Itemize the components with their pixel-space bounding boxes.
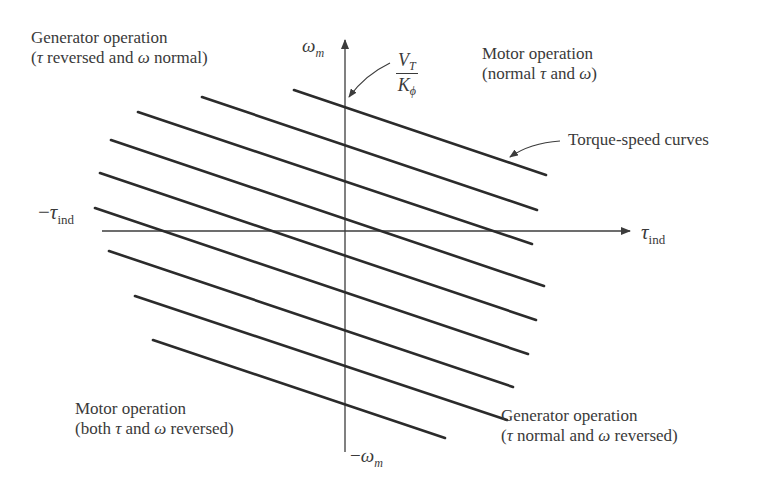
curve-line (109, 251, 513, 387)
quadrant-title: Generator operation (31, 28, 208, 48)
quadrant-subtitle: (τ normal and ω reversed) (501, 426, 678, 446)
intercept-fraction-label: VT Kϕ (396, 50, 418, 97)
curve-line (100, 173, 536, 320)
quadrant-title: Motor operation (75, 399, 234, 419)
fraction-numerator: VT (396, 50, 418, 72)
curve-line (95, 208, 528, 354)
tau-ind-axis-label: τind (641, 222, 665, 245)
quadrant-title: Motor operation (482, 44, 597, 64)
torque-speed-curves (95, 90, 546, 438)
fraction-bar (396, 73, 418, 74)
curves-pointer-arrow (510, 141, 560, 157)
quadrant-label-bottom-right: Generator operation (τ normal and ω reve… (501, 406, 678, 446)
quadrant-title: Generator operation (501, 406, 678, 426)
omega-m-axis-label: ωm (302, 36, 324, 58)
curve-line (138, 112, 532, 244)
quadrant-label-bottom-left: Motor operation (both τ and ω reversed) (75, 399, 234, 439)
quadrant-subtitle: (both τ and ω reversed) (75, 419, 234, 439)
curve-line (111, 140, 544, 286)
intercept-pointer-arrow (349, 63, 390, 97)
quadrant-label-top-right: Motor operation (normal τ and ω) (482, 44, 597, 84)
torque-speed-curves-label: Torque-speed curves (568, 130, 709, 150)
diagram-canvas: Generator operation (τ reversed and ω no… (0, 0, 776, 483)
quadrant-subtitle: (τ reversed and ω normal) (31, 48, 208, 68)
quadrant-label-top-left: Generator operation (τ reversed and ω no… (31, 28, 208, 68)
curve-line (294, 90, 546, 175)
fraction-denominator: Kϕ (396, 75, 418, 97)
quadrant-subtitle: (normal τ and ω) (482, 64, 597, 84)
axes (102, 40, 630, 452)
neg-tau-ind-axis-label: −τind (38, 202, 74, 225)
curve-line (202, 97, 537, 210)
neg-omega-m-axis-label: −ωm (350, 446, 383, 468)
